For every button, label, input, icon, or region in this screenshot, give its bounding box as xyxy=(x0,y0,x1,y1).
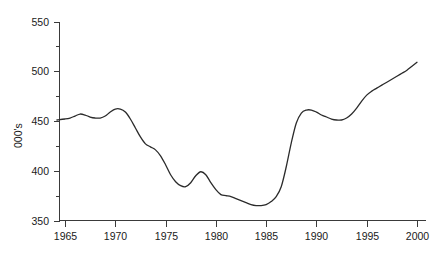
y-tick-label: 350 xyxy=(31,215,49,227)
y-tick-label: 400 xyxy=(31,165,49,177)
y-tick-label: 450 xyxy=(31,115,49,127)
x-tick-label: 1990 xyxy=(305,230,329,242)
x-tick-label: 1985 xyxy=(255,230,279,242)
chart-container: 000's 350400450500550 196519701975198019… xyxy=(0,0,439,260)
x-tick-label: 1995 xyxy=(356,230,380,242)
y-tick-label: 500 xyxy=(31,65,49,77)
x-tick-label: 1965 xyxy=(54,230,78,242)
y-tick-label: 550 xyxy=(31,16,49,28)
y-axis-title: 000's xyxy=(12,123,24,148)
line-chart: 000's 350400450500550 196519701975198019… xyxy=(0,0,439,260)
x-tick-label: 1970 xyxy=(104,230,128,242)
x-tick-label: 1980 xyxy=(205,230,229,242)
x-tick-label: 2000 xyxy=(406,230,430,242)
x-tick-label: 1975 xyxy=(155,230,179,242)
